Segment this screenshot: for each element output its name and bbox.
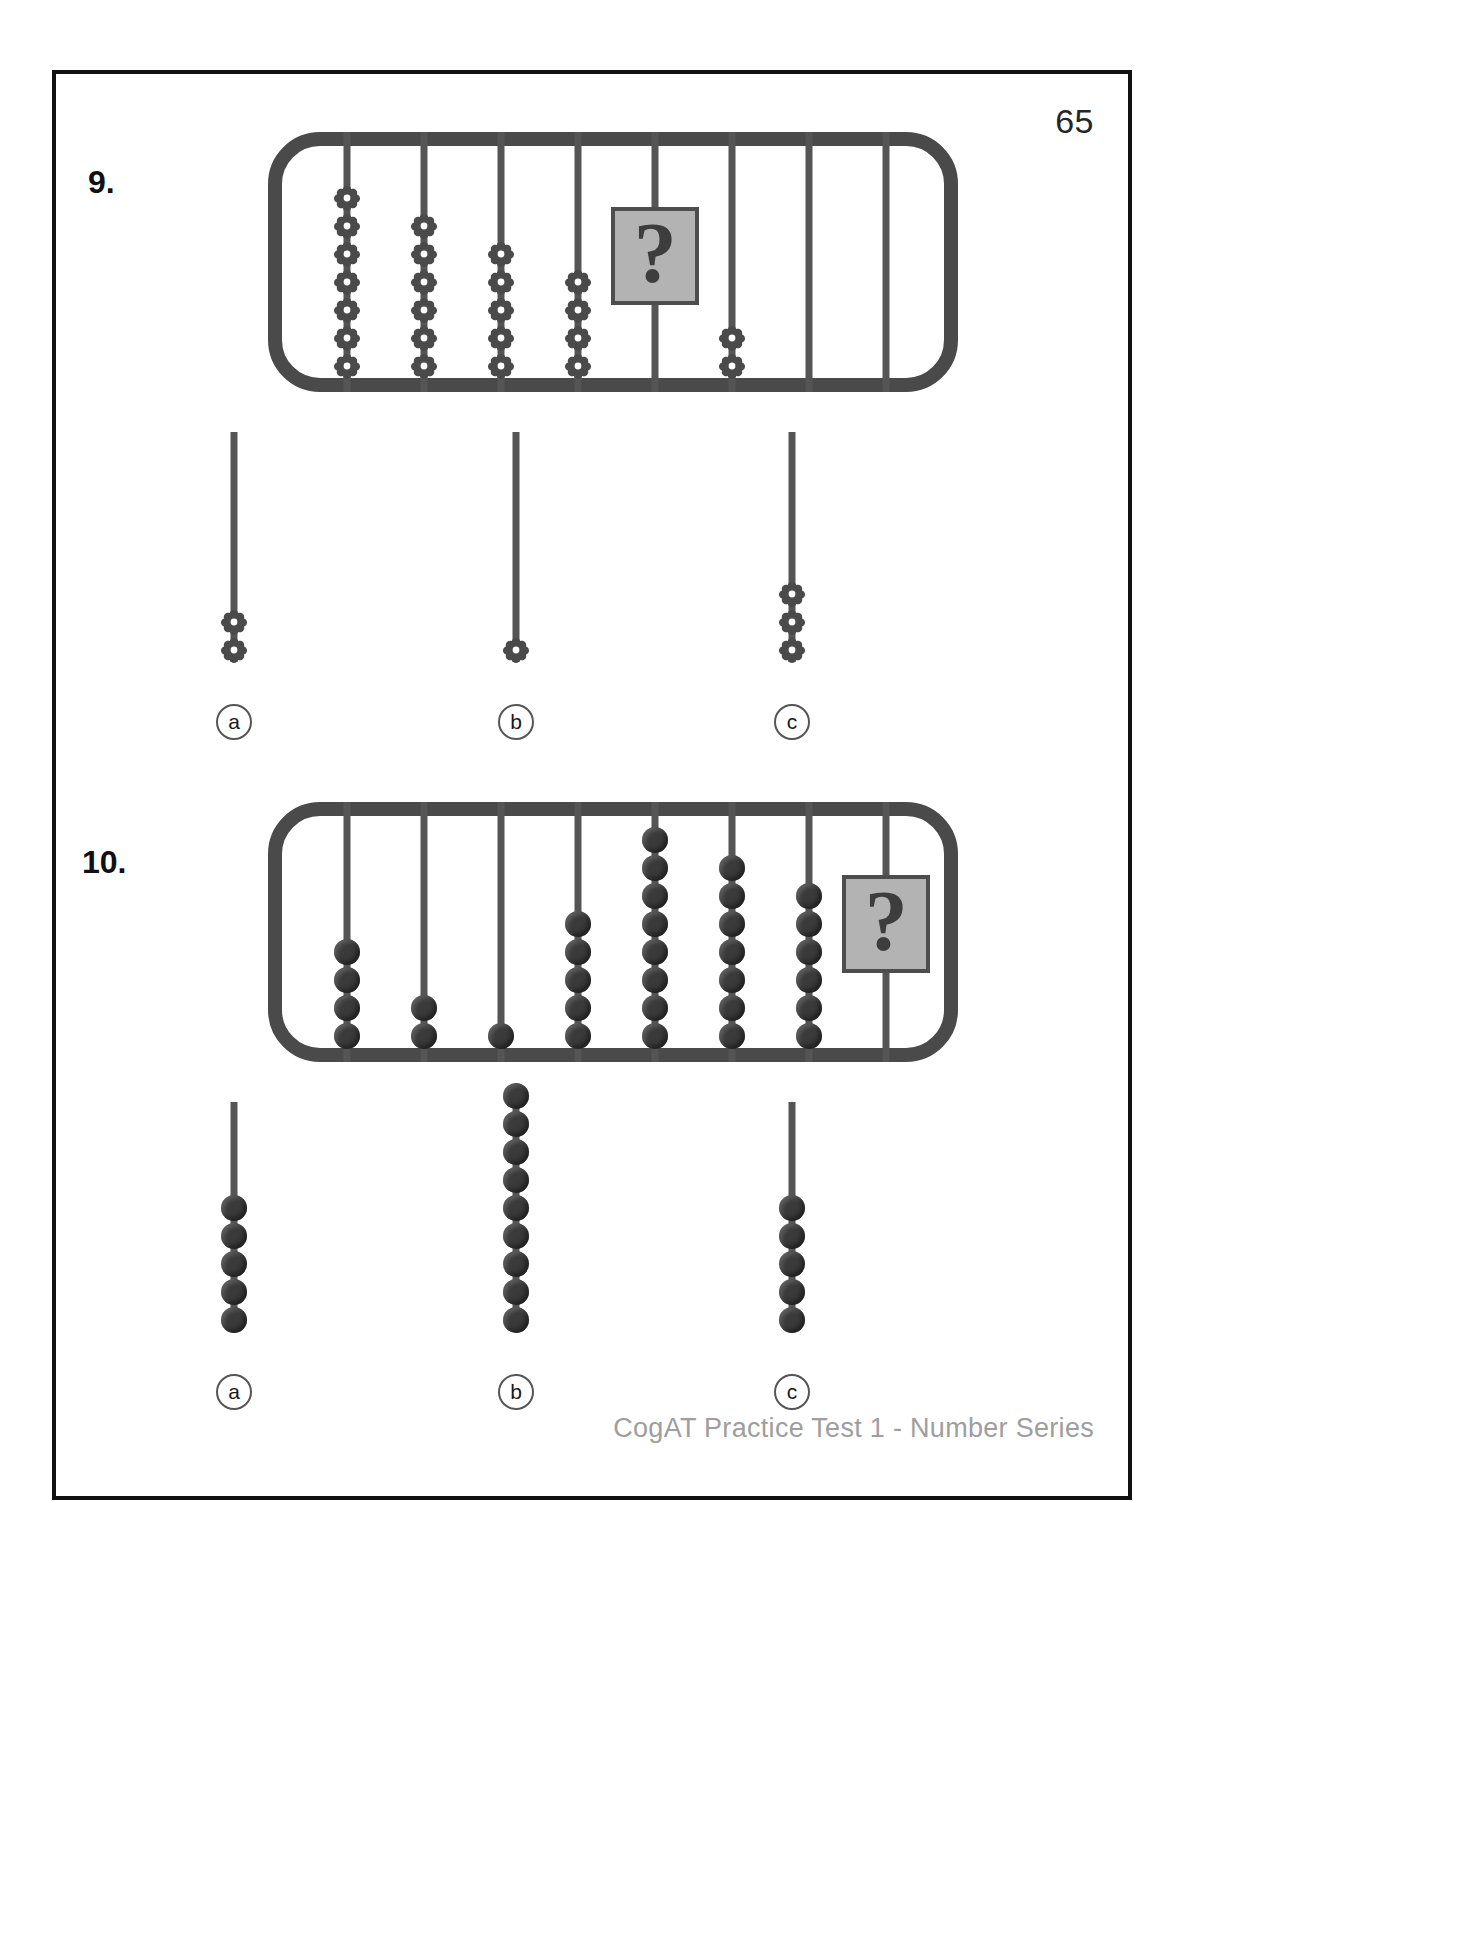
round-bead (719, 883, 745, 909)
footer-label: CogAT Practice Test 1 - Number Series (613, 1413, 1094, 1444)
option-label-a[interactable]: a (216, 1374, 252, 1410)
option-label-a[interactable]: a (216, 704, 252, 740)
round-bead (642, 939, 668, 965)
flower-bead (777, 637, 807, 663)
flower-bead (409, 241, 439, 267)
round-bead (503, 1251, 529, 1277)
round-bead (719, 967, 745, 993)
abacus-question-10: ? (268, 802, 958, 1062)
flower-bead (332, 297, 362, 323)
abacus-question-9: ? (268, 132, 958, 392)
flower-bead (563, 353, 593, 379)
round-bead (796, 883, 822, 909)
flower-bead (219, 637, 249, 663)
round-bead (642, 883, 668, 909)
flower-bead (332, 269, 362, 295)
round-bead (565, 995, 591, 1021)
flower-bead (409, 213, 439, 239)
option-rod (513, 432, 520, 662)
abacus-rod (806, 132, 813, 392)
answer-option-a[interactable]: a (174, 1102, 294, 1412)
round-bead (779, 1279, 805, 1305)
flower-bead (563, 269, 593, 295)
flower-bead (717, 325, 747, 351)
flower-bead (486, 325, 516, 351)
round-bead (503, 1195, 529, 1221)
worksheet-page: 65 9. ? abc 10. ? abc CogAT Practice Tes… (52, 70, 1132, 1500)
flower-bead (409, 325, 439, 351)
round-bead (719, 995, 745, 1021)
round-bead (411, 995, 437, 1021)
round-bead (642, 827, 668, 853)
round-bead (779, 1251, 805, 1277)
abacus-rod (883, 132, 890, 392)
round-bead (503, 1167, 529, 1193)
round-bead (334, 967, 360, 993)
flower-bead (563, 325, 593, 351)
flower-bead (486, 297, 516, 323)
question-mark-tile: ? (611, 207, 699, 305)
round-bead (503, 1279, 529, 1305)
round-bead (221, 1195, 247, 1221)
question-mark-tile: ? (842, 875, 930, 973)
round-bead (565, 939, 591, 965)
flower-bead (501, 637, 531, 663)
abacus-rods-container-9: ? (282, 146, 944, 378)
round-bead (411, 1023, 437, 1049)
round-bead (334, 939, 360, 965)
round-bead (796, 967, 822, 993)
flower-bead (409, 353, 439, 379)
round-bead (796, 1023, 822, 1049)
round-bead (642, 967, 668, 993)
round-bead (779, 1307, 805, 1333)
round-bead (642, 911, 668, 937)
round-bead (719, 855, 745, 881)
flower-bead (332, 185, 362, 211)
option-label-b[interactable]: b (498, 704, 534, 740)
flower-bead (409, 297, 439, 323)
round-bead (503, 1083, 529, 1109)
round-bead (779, 1195, 805, 1221)
answer-option-c[interactable]: c (732, 432, 852, 742)
round-bead (503, 1139, 529, 1165)
round-bead (565, 967, 591, 993)
question-number-9: 9. (88, 164, 115, 201)
answer-option-b[interactable]: b (456, 432, 576, 742)
round-bead (796, 995, 822, 1021)
abacus-rods-container-10: ? (282, 816, 944, 1048)
option-label-b[interactable]: b (498, 1374, 534, 1410)
flower-bead (219, 609, 249, 635)
flower-bead (409, 269, 439, 295)
flower-bead (486, 353, 516, 379)
round-bead (503, 1111, 529, 1137)
answer-option-a[interactable]: a (174, 432, 294, 742)
round-bead (719, 1023, 745, 1049)
round-bead (221, 1279, 247, 1305)
flower-bead (332, 213, 362, 239)
round-bead (503, 1223, 529, 1249)
flower-bead (777, 581, 807, 607)
round-bead (565, 1023, 591, 1049)
round-bead (221, 1223, 247, 1249)
round-bead (334, 1023, 360, 1049)
answer-option-c[interactable]: c (732, 1102, 852, 1412)
round-bead (719, 939, 745, 965)
page-number: 65 (1055, 102, 1094, 141)
round-bead (488, 1023, 514, 1049)
round-bead (719, 911, 745, 937)
flower-bead (332, 353, 362, 379)
flower-bead (332, 325, 362, 351)
flower-bead (777, 609, 807, 635)
round-bead (334, 995, 360, 1021)
answer-option-b[interactable]: b (456, 1102, 576, 1412)
round-bead (642, 1023, 668, 1049)
round-bead (796, 939, 822, 965)
round-bead (221, 1307, 247, 1333)
flower-bead (486, 241, 516, 267)
round-bead (221, 1251, 247, 1277)
option-label-c[interactable]: c (774, 704, 810, 740)
option-label-c[interactable]: c (774, 1374, 810, 1410)
round-bead (642, 855, 668, 881)
round-bead (642, 995, 668, 1021)
round-bead (503, 1307, 529, 1333)
